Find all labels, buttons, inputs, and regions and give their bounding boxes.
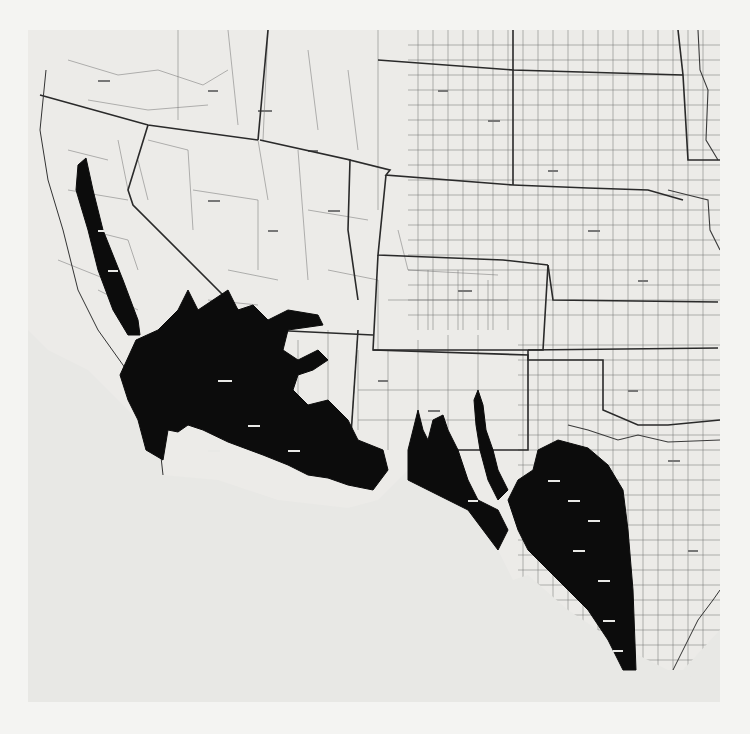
distribution-map — [28, 30, 720, 702]
map-frame — [28, 30, 720, 702]
rivers — [568, 30, 720, 442]
caption-bleed-through — [30, 708, 720, 722]
